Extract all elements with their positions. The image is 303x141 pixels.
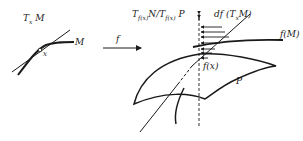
- quotient-space-label: Tf(x)N/Tf(x) P: [132, 10, 184, 21]
- map-label: f: [116, 35, 119, 44]
- manifold-label: M: [75, 38, 84, 47]
- diagram-drawing: [0, 0, 303, 141]
- right-panel: [134, 14, 283, 132]
- tangent-space-label: Tx M: [23, 14, 44, 25]
- point-label: x: [43, 51, 47, 58]
- transversality-diagram: Tx M M x f Tf(x)N/Tf(x) P df (TxM) f(M) …: [0, 0, 303, 141]
- differential-line-dashed: [178, 66, 192, 84]
- point-x: [38, 48, 42, 52]
- submanifold-label: P: [236, 77, 242, 86]
- image-point-label: f(x): [203, 62, 218, 71]
- differential-line-below: [140, 84, 178, 132]
- surface-inner-curve: [175, 88, 184, 124]
- image-curve-label: f(M): [280, 30, 300, 39]
- differential-image-label: df (TxM): [214, 10, 252, 21]
